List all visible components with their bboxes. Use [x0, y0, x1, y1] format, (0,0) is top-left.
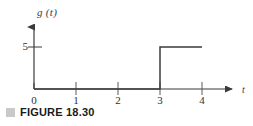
- x-tick-label-3: 3: [153, 95, 167, 106]
- x-tick-label-2: 2: [111, 95, 125, 106]
- y-axis-label: g (t): [37, 7, 57, 18]
- caption-bullet-icon: [6, 108, 15, 117]
- x-tick-label-0: 0: [27, 95, 41, 106]
- figure-caption-text: FIGURE 18.30: [20, 107, 95, 118]
- x-tick-label-4: 4: [195, 95, 209, 106]
- figure-container: g (t) t 5 0 1 2 3 4 FIGURE 18.30: [0, 0, 253, 126]
- x-tick-label-1: 1: [69, 95, 83, 106]
- y-tick-label-5: 5: [18, 41, 28, 52]
- x-axis-label: t: [242, 85, 245, 95]
- figure-caption: FIGURE 18.30: [6, 107, 95, 118]
